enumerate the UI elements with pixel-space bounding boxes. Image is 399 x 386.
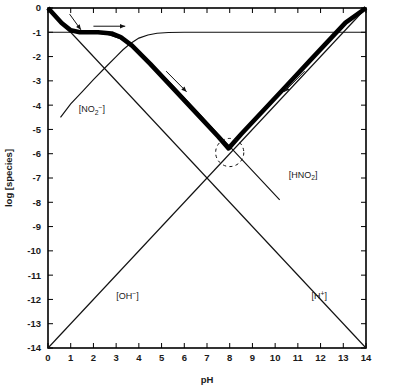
x-tick-label: 7 [204, 352, 209, 363]
equivalence-point-marker [216, 138, 244, 166]
x-tick-label: 0 [45, 352, 50, 363]
x-tick-label: 3 [113, 352, 118, 363]
arrow-top-left-diagonal-head [76, 24, 81, 30]
y-tick-label: -11 [28, 270, 42, 281]
series-labels: [NO2−][HNO2][OH−][H+] [79, 104, 327, 301]
x-axis-tick-labels: 01234567891011121314 [45, 352, 372, 363]
x-tick-label: 10 [270, 352, 281, 363]
x-tick-label: 1 [68, 352, 74, 363]
x-tick-label: 9 [250, 352, 255, 363]
series-label-nitrous-acid: [HNO2] [289, 170, 318, 181]
chart-annotations [70, 14, 305, 167]
y-tick-label: -10 [27, 245, 41, 256]
y-tick-label: -12 [27, 294, 41, 305]
y-axis-tick-labels: 0-1-2-3-4-5-6-7-8-9-10-11-12-13-14 [27, 2, 41, 353]
x-axis-title: pH [201, 374, 214, 385]
x-tick-label: 12 [315, 352, 326, 363]
x-tick-label: 6 [182, 352, 187, 363]
y-tick-label: -1 [33, 27, 42, 38]
series-label-hydrogen: [H+] [311, 290, 327, 301]
x-tick-label: 8 [227, 352, 232, 363]
curve-no2 [60, 32, 366, 117]
curve-hno2 [48, 32, 280, 200]
y-tick-label: -13 [27, 318, 41, 329]
y-tick-label: -8 [33, 197, 41, 208]
x-tick-label: 2 [91, 352, 96, 363]
chart-canvas: 01234567891011121314 0-1-2-3-4-5-6-7-8-9… [0, 0, 399, 386]
y-axis-title: log [species] [3, 149, 14, 207]
y-tick-label: -14 [27, 342, 41, 353]
series-label-hydroxide: [OH−] [116, 290, 139, 301]
y-tick-label: -9 [33, 221, 41, 232]
y-tick-label: -3 [33, 75, 41, 86]
curve-protonconditioncurve [48, 8, 366, 148]
series-label-nitrite: [NO2−] [79, 104, 105, 116]
x-tick-label: 11 [293, 352, 304, 363]
x-tick-label: 4 [136, 352, 142, 363]
y-tick-label: -6 [33, 148, 41, 159]
y-tick-label: -2 [33, 51, 41, 62]
log-concentration-ph-diagram: 01234567891011121314 0-1-2-3-4-5-6-7-8-9… [0, 0, 399, 386]
x-tick-label: 5 [159, 352, 165, 363]
arrow-top-horizontal-head [120, 24, 125, 28]
y-tick-label: -5 [33, 124, 42, 135]
x-tick-label: 13 [338, 352, 349, 363]
y-tick-label: -7 [33, 172, 41, 183]
x-tick-label: 14 [361, 352, 372, 363]
y-tick-label: -4 [33, 100, 42, 111]
y-tick-label: 0 [36, 2, 41, 13]
